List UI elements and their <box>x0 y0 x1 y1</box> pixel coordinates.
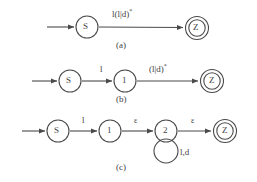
automata-canvas <box>0 0 257 182</box>
state-label-Z-c: Z <box>222 126 228 135</box>
kleene-star-icon: * <box>164 63 167 69</box>
edge-label-1-to-2-c: ε <box>134 117 137 125</box>
state-label-S-b: S <box>66 76 71 85</box>
edge-label-2-to-Z-c: ε <box>191 117 194 125</box>
edge-label-1-to-Z-b: (l|d)* <box>149 63 167 74</box>
state-label-1-b: 1 <box>122 76 127 85</box>
self-loop-label-2-c: l,d <box>180 148 189 157</box>
state-label-Z-b: Z <box>209 76 215 85</box>
edge-label-S-to-Z-a: l(l|d)* <box>112 8 132 19</box>
self-loop-2-c <box>154 139 178 163</box>
state-label-1-c: 1 <box>107 126 112 135</box>
edge-label-S-to-1-b: l <box>100 65 103 74</box>
edge-label-S-to-1-c: l <box>82 116 85 125</box>
state-label-2-c: 2 <box>163 126 168 135</box>
state-label-S-a: S <box>83 22 88 31</box>
edge-label-text: (l|d) <box>149 64 164 74</box>
edge-S-to-Z-a <box>99 27 183 28</box>
state-label-S-c: S <box>54 126 59 135</box>
row-b-graphics <box>32 70 224 93</box>
automata-figure: S Z l(l|d)* (a) S 1 Z l (l|d)* (b) S 1 2… <box>0 0 257 182</box>
kleene-star-icon: * <box>129 8 132 14</box>
caption-c: (c) <box>116 163 126 172</box>
state-label-Z-a: Z <box>193 23 199 32</box>
row-a-graphics <box>47 16 209 40</box>
edge-label-text: l(l|d) <box>112 9 129 19</box>
caption-a: (a) <box>116 41 126 50</box>
caption-b: (b) <box>116 95 127 104</box>
